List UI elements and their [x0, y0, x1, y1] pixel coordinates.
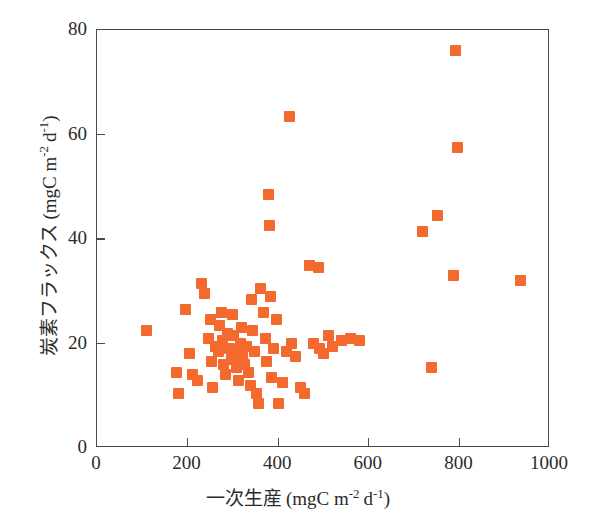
x-axis-tick-label: 800	[444, 452, 473, 474]
data-point-marker	[426, 362, 437, 373]
data-point-marker	[432, 210, 443, 221]
data-point-marker	[173, 388, 184, 399]
x-axis-tick	[278, 438, 279, 446]
data-point-marker	[448, 270, 459, 281]
data-point-marker	[216, 307, 227, 318]
plot-area	[96, 29, 549, 447]
data-point-marker	[258, 307, 269, 318]
data-point-marker	[313, 262, 324, 273]
x-axis-tick	[368, 438, 369, 446]
data-point-marker	[213, 346, 224, 357]
x-axis-tick-label: 0	[91, 452, 101, 474]
y-axis-tick-label: 60	[68, 124, 87, 144]
data-point-marker	[184, 348, 195, 359]
y-axis-title: 炭素フラックス(mgC m-2d-1)	[34, 26, 61, 446]
data-point-marker	[286, 338, 297, 349]
data-point-marker	[251, 388, 262, 399]
data-point-marker	[247, 325, 258, 336]
data-point-marker	[220, 369, 231, 380]
data-point-marker	[261, 356, 272, 367]
data-point-marker	[263, 189, 274, 200]
scatter-plot-figure: 一次生産(mgC m-2d-1) 炭素フラックス(mgC m-2d-1) 020…	[0, 0, 596, 527]
data-point-marker	[192, 375, 203, 386]
data-point-marker	[268, 343, 279, 354]
data-point-marker	[277, 377, 288, 388]
data-point-marker	[243, 367, 254, 378]
x-axis-tick-label: 400	[263, 452, 292, 474]
data-point-marker	[515, 275, 526, 286]
y-axis-tick-label: 0	[78, 437, 88, 457]
data-point-marker	[417, 226, 428, 237]
data-point-marker	[450, 45, 461, 56]
y-axis-tick-label: 40	[68, 228, 87, 248]
data-point-marker	[299, 388, 310, 399]
x-axis-tick	[459, 438, 460, 446]
y-axis-tick-label: 20	[68, 333, 87, 353]
data-point-marker	[246, 294, 257, 305]
data-point-marker	[260, 333, 271, 344]
data-point-marker	[180, 304, 191, 315]
x-axis-tick-label: 200	[172, 452, 201, 474]
y-axis-tick	[97, 238, 105, 239]
data-point-marker	[206, 356, 217, 367]
data-point-marker	[271, 314, 282, 325]
data-point-marker	[227, 309, 238, 320]
data-point-marker	[266, 372, 277, 383]
y-axis-tick	[97, 343, 105, 344]
data-point-marker	[236, 322, 247, 333]
data-point-marker	[253, 398, 264, 409]
data-point-marker	[290, 351, 301, 362]
data-point-marker	[265, 291, 276, 302]
data-point-marker	[207, 382, 218, 393]
x-axis-title: 一次生産(mgC m-2d-1)	[0, 483, 596, 510]
data-point-marker	[264, 220, 275, 231]
data-point-marker	[284, 111, 295, 122]
data-point-marker	[199, 288, 210, 299]
y-axis-tick	[97, 134, 105, 135]
data-point-marker	[273, 398, 284, 409]
data-point-marker	[452, 142, 463, 153]
x-axis-tick-label: 1000	[530, 452, 568, 474]
x-axis-tick	[187, 438, 188, 446]
y-axis-tick-label: 80	[68, 19, 87, 39]
data-point-marker	[171, 367, 182, 378]
data-point-marker	[354, 335, 365, 346]
data-point-marker	[323, 330, 334, 341]
data-point-marker	[196, 278, 207, 289]
data-point-marker	[141, 325, 152, 336]
data-point-marker	[249, 346, 260, 357]
x-axis-tick-label: 600	[354, 452, 383, 474]
